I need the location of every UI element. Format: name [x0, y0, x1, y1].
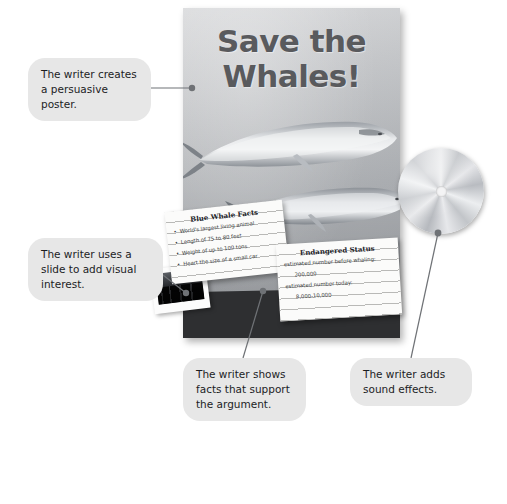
callout-sound[interactable]: The writer adds sound effects.	[350, 358, 472, 406]
illustration-stage: Save the Whales!	[0, 0, 507, 504]
cd-center-hole	[436, 186, 447, 197]
poster-title-line-1: Save the	[217, 23, 366, 59]
index-card-endangered-status[interactable]: Endangered Status estimated number befor…	[276, 237, 402, 321]
callout-poster[interactable]: The writer creates a persuasive poster.	[28, 58, 151, 121]
audio-cd-icon[interactable]	[398, 148, 484, 234]
index-card-blue-whale-facts[interactable]: Blue Whale Facts World's largest living …	[164, 200, 289, 284]
callout-facts[interactable]: The writer shows facts that support the …	[183, 358, 306, 421]
poster-title-line-2: Whales!	[183, 59, 400, 94]
callout-slide[interactable]: The writer uses a slide to add visual in…	[28, 238, 163, 301]
poster-title: Save the Whales!	[183, 24, 400, 94]
